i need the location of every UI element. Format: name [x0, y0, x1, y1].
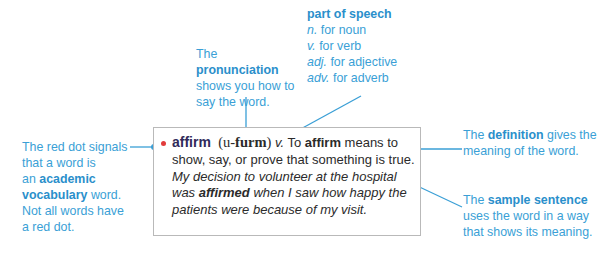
- dictionary-entry: affirm (u-furm) v. To affirm means to sh…: [172, 134, 422, 219]
- pos-item-adjective: adj. for adjective: [307, 54, 417, 70]
- pronunciation-callout: The pronunciation shows you how to say t…: [196, 46, 300, 110]
- pos-item-verb: v. for verb: [307, 38, 417, 54]
- part-of-speech-callout: part of speech n. for noun v. for verb a…: [307, 6, 417, 86]
- pos-item-noun: n. for noun: [307, 22, 417, 38]
- red-dot-icon: [161, 141, 166, 146]
- definition-callout: The definition gives the meaning of the …: [463, 127, 612, 159]
- headword: affirm: [172, 134, 211, 150]
- part-of-speech-title: part of speech: [307, 7, 392, 21]
- pos-item-adverb: adv. for adverb: [307, 70, 417, 86]
- part-of-speech: v.: [275, 135, 284, 150]
- pronunciation: (u-furm): [215, 134, 272, 150]
- sample-sentence-callout: The sample sentence uses the word in a w…: [463, 192, 612, 240]
- red-dot-callout: The red dot signals that a word is an ac…: [22, 139, 134, 235]
- sample-sentence: My decision to volunteer at the hospital…: [172, 169, 407, 218]
